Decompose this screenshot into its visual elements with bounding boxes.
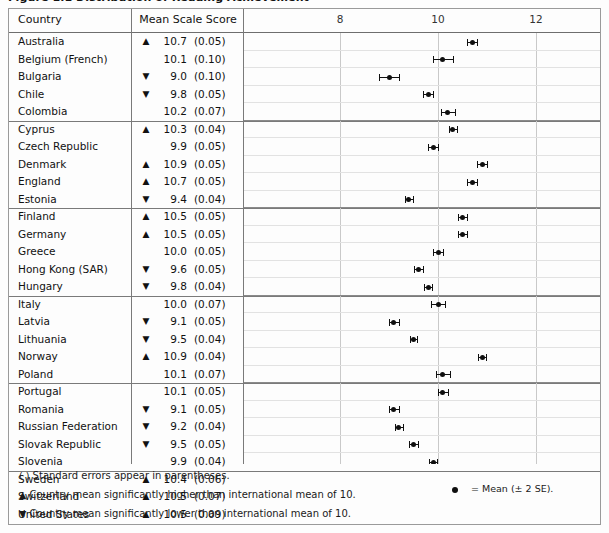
legend: = Mean (± 2 SE).	[452, 483, 553, 494]
row-standard-error: (0.05)	[194, 158, 238, 170]
row-standard-error: (0.05)	[194, 385, 238, 397]
mean-point-marker	[391, 407, 396, 412]
significance-up-icon: ▲	[139, 35, 153, 48]
mean-point-marker	[426, 92, 431, 97]
significance-down-icon: ▼	[139, 420, 153, 433]
row-country-name: Portugal	[18, 385, 62, 397]
error-bar-cap-low	[433, 56, 434, 63]
row-standard-error: (0.05)	[194, 438, 238, 450]
footnote-text: Country mean significantly higher than i…	[26, 489, 355, 500]
error-bar-cap-low	[389, 319, 390, 326]
error-bar-cap-low	[433, 249, 434, 256]
mean-point-marker	[440, 57, 445, 62]
row-country-name: Poland	[18, 368, 53, 380]
axis-tick-10: 10	[431, 13, 444, 25]
row-country-name: Romania	[18, 403, 64, 415]
row-mean-value: 10.5	[155, 210, 187, 222]
error-bar-cap-high	[433, 91, 434, 98]
row-standard-error: (0.04)	[194, 193, 238, 205]
row-mean-value: 10.7	[155, 35, 187, 47]
error-bar-cap-low	[389, 406, 390, 413]
error-bar-cap-high	[418, 441, 419, 448]
mean-point-marker	[445, 110, 450, 115]
footnote-text: Standard errors appear in parentheses.	[29, 470, 229, 481]
row-standard-error: (0.07)	[194, 368, 238, 380]
footnotes-area: = Mean (± 2 SE). ( ) Standard errors app…	[9, 464, 600, 524]
row-mean-value: 10.0	[155, 298, 187, 310]
row-mean-value: 10.9	[155, 158, 187, 170]
significance-down-icon: ▼	[139, 193, 153, 206]
row-gridline	[244, 102, 600, 103]
mean-point-marker	[480, 355, 485, 360]
significance-down-icon: ▼	[139, 280, 153, 293]
row-country-name: Czech Republic	[18, 140, 98, 152]
row-country-name: Chile	[18, 88, 44, 100]
group-separator-line	[244, 120, 600, 121]
row-mean-value: 10.9	[155, 350, 187, 362]
row-standard-error: (0.07)	[194, 298, 238, 310]
significance-down-icon: ▼	[139, 333, 153, 346]
error-bar-cap-low	[441, 109, 442, 116]
error-bar-cap-high	[455, 109, 456, 116]
row-mean-value: 10.5	[155, 228, 187, 240]
clipped-figure-title: Figure 1.1 Distribution of Reading Achie…	[8, 0, 508, 3]
error-bar-cap-low	[428, 144, 429, 151]
row-standard-error: (0.05)	[194, 175, 238, 187]
group-separator-line	[244, 382, 600, 383]
row-country-name: Lithuania	[18, 333, 67, 345]
error-bar-cap-high	[467, 214, 468, 221]
row-gridline	[244, 417, 600, 418]
error-bar-cap-high	[467, 231, 468, 238]
row-standard-error: (0.05)	[194, 315, 238, 327]
row-country-name: Germany	[18, 228, 66, 240]
mean-point-marker	[411, 442, 416, 447]
error-bar-cap-high	[399, 319, 400, 326]
row-gridline	[244, 50, 600, 51]
footnote-text: Country mean significantly lower than in…	[26, 508, 351, 519]
row-mean-value: 10.1	[155, 53, 187, 65]
error-bar-cap-low	[458, 231, 459, 238]
error-bar-cap-high	[417, 336, 418, 343]
column-header-mean-scale-score: Mean Scale Score	[132, 13, 244, 26]
mean-point-marker	[396, 425, 401, 430]
significance-down-icon: ▼	[139, 315, 153, 328]
row-mean-value: 9.6	[155, 263, 187, 275]
row-mean-value: 9.5	[155, 333, 187, 345]
row-mean-value: 9.2	[155, 420, 187, 432]
row-mean-value: 9.1	[155, 315, 187, 327]
footnote: ▲ Country mean significantly higher than…	[19, 489, 356, 500]
row-gridline	[244, 260, 600, 261]
mean-point-marker	[431, 145, 436, 150]
mean-point-marker	[480, 162, 485, 167]
legend-dot-icon	[452, 487, 458, 493]
error-bar-cap-high	[423, 266, 424, 273]
plot-area	[244, 33, 600, 464]
error-bar-cap-high	[432, 284, 433, 291]
mean-point-marker	[450, 127, 455, 132]
table-body: Australia▲10.7(0.05)Belgium (French)10.1…	[9, 33, 600, 464]
error-bar-cap-high	[487, 161, 488, 168]
row-standard-error: (0.10)	[194, 53, 238, 65]
error-bar-cap-low	[438, 389, 439, 396]
row-country-name: Hungary	[18, 280, 63, 292]
row-mean-value: 9.5	[155, 438, 187, 450]
footnote: ▼ Country mean significantly lower than …	[19, 508, 351, 519]
row-country-name: Hong Kong (SAR)	[18, 263, 108, 275]
row-mean-value: 10.1	[155, 385, 187, 397]
row-gridline	[244, 452, 600, 453]
significance-up-icon: ▲	[139, 350, 153, 363]
error-bar-cap-high	[445, 301, 446, 308]
row-standard-error: (0.04)	[194, 350, 238, 362]
error-bar-cap-high	[438, 144, 439, 151]
mean-point-marker	[470, 40, 475, 45]
error-bar-cap-low	[467, 39, 468, 46]
significance-up-icon: ▲	[139, 210, 153, 223]
significance-down-icon: ▼	[139, 438, 153, 451]
row-standard-error: (0.05)	[194, 210, 238, 222]
row-gridline	[244, 225, 600, 226]
mean-point-marker	[426, 285, 431, 290]
row-country-name: Australia	[18, 35, 64, 47]
mean-point-marker	[387, 75, 392, 80]
row-country-name: Slovak Republic	[18, 438, 101, 450]
significance-up-icon: ▲	[139, 158, 153, 171]
